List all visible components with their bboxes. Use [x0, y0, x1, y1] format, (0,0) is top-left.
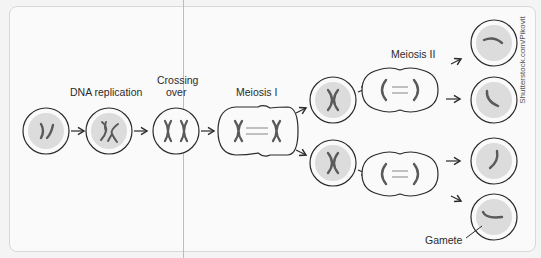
initial-cell [23, 108, 69, 154]
label-meiosis-2: Meiosis II [391, 48, 435, 60]
daughter-cell-bottom [310, 140, 356, 186]
gamete-3 [471, 138, 517, 184]
label-crossing-over-2: over [166, 86, 186, 98]
meiosis-diagram [0, 0, 541, 258]
meiosis-2-dividing-cell-top [362, 68, 438, 112]
meiosis-1-dividing-cell [218, 106, 298, 156]
arrow [451, 196, 461, 201]
gamete-4 [471, 194, 517, 240]
arrow [451, 59, 461, 64]
daughter-cell-top [310, 77, 356, 123]
dna-replication-cell [86, 108, 132, 154]
crossing-over-cell [153, 108, 199, 154]
label-meiosis-1: Meiosis I [236, 86, 277, 98]
arrow [296, 108, 306, 113]
meiosis-2-dividing-cell-bottom [362, 152, 438, 196]
label-crossing-over-1: Crossing [157, 74, 198, 86]
label-dna-replication: DNA replication [70, 86, 142, 98]
gamete-1 [471, 20, 517, 66]
arrow [296, 150, 306, 155]
gamete-2 [471, 77, 517, 123]
image-credit: Shutterstock.com/Pikovit [518, 16, 527, 104]
label-gamete: Gamete [425, 234, 462, 246]
